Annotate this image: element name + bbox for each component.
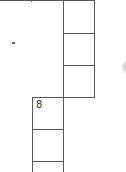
crossword-cell[interactable]: [63, 65, 95, 98]
scroll-handle[interactable]: [122, 60, 126, 74]
crossword-cell[interactable]: 8: [32, 97, 64, 130]
crossword-cell[interactable]: [32, 161, 64, 172]
crossword-cell[interactable]: [32, 129, 64, 162]
crossword-cell[interactable]: [63, 33, 95, 66]
crossword-cell[interactable]: [63, 0, 95, 34]
grid-divider: [31, 0, 32, 2]
clue-number: 8: [36, 100, 42, 110]
stray-mark: [12, 42, 15, 44]
